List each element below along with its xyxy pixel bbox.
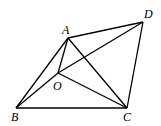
segment-AC (68, 38, 127, 108)
geometry-diagram: A D O B C (0, 0, 161, 126)
label-O: O (53, 79, 62, 93)
segment-BD (16, 73, 58, 108)
label-D: D (143, 7, 153, 21)
segment-AB (16, 38, 68, 108)
label-A: A (61, 23, 70, 37)
segment-OD (58, 22, 143, 73)
segment-DC (127, 22, 143, 108)
label-B: B (11, 110, 19, 124)
segment-AD (68, 22, 143, 38)
segment-OC (58, 73, 127, 108)
label-C: C (123, 110, 132, 124)
